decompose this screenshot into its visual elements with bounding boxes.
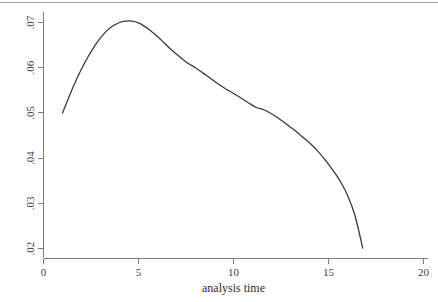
chart-screenshot: .07 .06 .05 .04 .03 .02 0 5 10 15 20 ana… bbox=[0, 0, 438, 302]
x-tick-label: 0 bbox=[41, 266, 47, 278]
x-tick-label: 15 bbox=[323, 266, 335, 278]
y-tick-label: .07 bbox=[24, 15, 36, 29]
x-axis-ticks bbox=[44, 259, 424, 265]
x-tick-label: 10 bbox=[228, 266, 240, 278]
hazard-plot: .07 .06 .05 .04 .03 .02 0 5 10 15 20 ana… bbox=[0, 0, 438, 302]
y-axis-ticks bbox=[38, 23, 44, 249]
y-tick-label: .03 bbox=[24, 196, 36, 210]
y-tick-label: .04 bbox=[24, 151, 36, 165]
y-tick-label: .02 bbox=[24, 242, 36, 256]
y-tick-label: .05 bbox=[24, 106, 36, 120]
x-axis-tick-labels: 0 5 10 15 20 bbox=[41, 266, 430, 278]
y-axis-tick-labels: .07 .06 .05 .04 .03 .02 bbox=[24, 15, 36, 255]
y-tick-label: .06 bbox=[24, 60, 36, 74]
x-tick-label: 5 bbox=[136, 266, 142, 278]
x-axis-title: analysis time bbox=[202, 281, 265, 295]
x-tick-label: 20 bbox=[418, 266, 430, 278]
hazard-curve bbox=[63, 21, 363, 248]
